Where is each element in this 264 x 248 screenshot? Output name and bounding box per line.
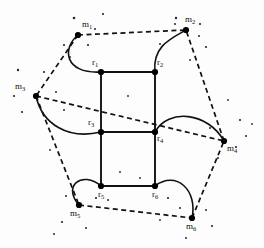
node-label-m2: m2 [185, 15, 195, 24]
speckle [175, 17, 177, 19]
speckle [205, 209, 207, 211]
scan-noise-speckles [13, 13, 253, 239]
node-label-base-m6: m [186, 221, 193, 231]
node-label-m1: m1 [82, 20, 92, 29]
node-label-sub-m1: 1 [89, 23, 92, 30]
node-label-m6: m6 [186, 222, 196, 231]
node-label-sub-m3: 3 [22, 85, 25, 92]
speckle [139, 177, 141, 179]
speckle [63, 109, 65, 111]
node-m2 [183, 27, 189, 33]
speckle [55, 91, 57, 93]
speckle [205, 46, 207, 48]
speckle [198, 35, 200, 37]
dashed-edge-m1-m2 [78, 30, 186, 35]
node-m1 [75, 32, 81, 38]
node-label-sub-r5: 5 [101, 193, 104, 200]
speckle [102, 13, 104, 15]
speckle [73, 17, 76, 20]
node-label-m5: m5 [70, 209, 80, 218]
node-label-r6: r6 [152, 190, 158, 199]
node-label-sub-r1: 1 [95, 61, 98, 68]
speckle [107, 199, 109, 201]
speckle [13, 95, 15, 97]
speckle [53, 233, 55, 235]
speckle [65, 195, 67, 197]
dashed-edge-m5-m6 [79, 205, 192, 218]
speckle [189, 59, 191, 61]
node-label-m3: m3 [15, 82, 25, 91]
node-r3 [98, 129, 104, 135]
speckle [179, 207, 181, 209]
node-label-sub-r3: 3 [91, 121, 94, 128]
speckle [95, 197, 97, 199]
node-label-r5: r5 [98, 190, 104, 199]
node-layer [33, 27, 227, 221]
node-r2 [152, 69, 158, 75]
speckle [251, 123, 253, 125]
speckle [159, 43, 161, 45]
diagram-canvas [0, 0, 264, 248]
speckle [239, 119, 241, 121]
speckle [167, 197, 169, 199]
speckle [63, 44, 65, 46]
speckle [209, 127, 211, 129]
node-label-sub-m4: 4 [234, 147, 237, 154]
speckle [21, 111, 23, 113]
node-label-m4: m4 [227, 144, 237, 153]
speckle [174, 23, 176, 25]
speckle [94, 28, 96, 30]
node-label-sub-m2: 2 [192, 18, 195, 25]
graph-diagram: r1r2r3r4r5r6m1m2m3m4m5m6 [0, 0, 264, 248]
speckle [245, 135, 247, 137]
node-r1 [98, 69, 104, 75]
node-label-sub-m6: 6 [193, 225, 196, 232]
node-label-sub-r6: 6 [155, 193, 158, 200]
arc-edge-m3-r3 [36, 96, 101, 134]
arc-edge-r5-m5 [73, 179, 101, 205]
dashed-edge-m6-m4 [192, 141, 224, 218]
speckle [61, 221, 63, 223]
node-label-base-m4: m [227, 143, 234, 153]
speckle [119, 171, 121, 173]
speckle [87, 44, 89, 46]
dashed-edge-m1-m3 [36, 35, 78, 96]
speckle [49, 149, 51, 151]
node-label-r2: r2 [157, 58, 163, 67]
arc-edge-r4-m4 [155, 116, 224, 141]
node-label-base-m3: m [15, 81, 22, 91]
node-label-r3: r3 [88, 118, 94, 127]
node-label-r4: r4 [157, 134, 163, 143]
node-label-r1: r1 [92, 58, 98, 67]
node-label-base-m5: m [70, 208, 77, 218]
node-label-sub-r4: 4 [160, 137, 163, 144]
speckle [127, 95, 129, 97]
speckle [185, 237, 187, 239]
node-label-base-m1: m [82, 19, 89, 29]
speckle [159, 219, 161, 221]
speckle [199, 23, 201, 25]
dashed-edge-layer [36, 30, 224, 218]
speckle [227, 99, 229, 101]
node-label-base-m2: m [185, 14, 192, 24]
speckle [17, 69, 19, 71]
arc-edge-r6-m6 [155, 180, 193, 218]
node-label-sub-r2: 2 [160, 61, 163, 68]
speckle [43, 71, 45, 73]
node-label-sub-m5: 5 [77, 212, 80, 219]
speckle [85, 227, 87, 229]
grid-edge-layer [101, 72, 155, 186]
node-m3 [33, 93, 39, 99]
speckle [211, 225, 213, 227]
